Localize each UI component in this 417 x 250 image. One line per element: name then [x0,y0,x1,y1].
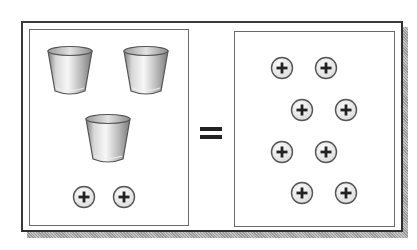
cup-icon [83,112,133,166]
positive-tile-icon [290,98,314,122]
positive-tile-icon [314,56,338,80]
equals-sign: = [200,124,222,140]
positive-tile-icon [270,56,294,80]
cup-icon [45,44,95,98]
positive-tile-icon [334,181,358,205]
positive-tile-icon [72,185,96,209]
positive-tile-icon [270,140,294,164]
positive-tile-icon [314,140,338,164]
positive-tile-icon [290,181,314,205]
positive-tile-icon [112,185,136,209]
cup-icon [121,44,171,98]
positive-tile-icon [334,98,358,122]
